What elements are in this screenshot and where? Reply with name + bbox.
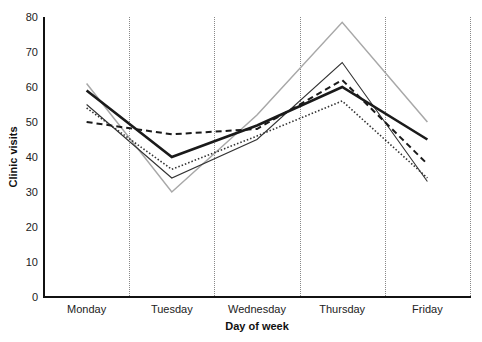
line-chart: 01020304050607080 MondayTuesdayWednesday…: [0, 0, 482, 342]
y-tick-label: 30: [26, 186, 38, 198]
x-tick-label: Thursday: [319, 303, 365, 315]
y-tick-label: 60: [26, 81, 38, 93]
series-thin-solid-line: [87, 63, 428, 182]
x-tick-label: Tuesday: [151, 303, 193, 315]
x-tick-label: Monday: [67, 303, 107, 315]
axes: [43, 17, 471, 297]
x-tick-label: Friday: [412, 303, 443, 315]
y-tick-labels: 01020304050607080: [26, 11, 38, 303]
y-tick-label: 70: [26, 46, 38, 58]
y-tick-label: 50: [26, 116, 38, 128]
y-tick-label: 0: [32, 291, 38, 303]
y-tick-label: 20: [26, 221, 38, 233]
series-dashed-line: [87, 80, 428, 164]
y-axis-title: Clinic visits: [7, 126, 19, 187]
vertical-gridlines: [130, 17, 471, 297]
series-lines: [87, 22, 428, 192]
x-tick-label: Wednesday: [228, 303, 286, 315]
y-tick-label: 80: [26, 11, 38, 23]
x-axis-title: Day of week: [225, 320, 289, 332]
x-tick-labels: MondayTuesdayWednesdayThursdayFriday: [67, 303, 443, 315]
y-tick-label: 40: [26, 151, 38, 163]
y-tick-label: 10: [26, 256, 38, 268]
series-thick-solid-line: [87, 87, 428, 157]
